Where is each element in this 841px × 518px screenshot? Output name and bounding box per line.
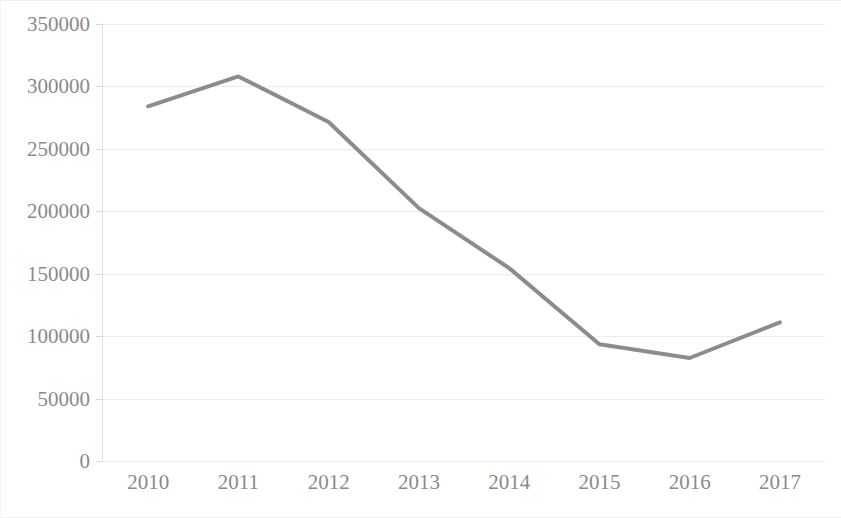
x-axis-tick-label: 2012 xyxy=(308,472,350,493)
y-axis-tick-mark xyxy=(96,211,103,212)
y-axis-tick-label: 100000 xyxy=(27,326,90,347)
chart-top-border xyxy=(0,0,841,1)
x-axis-tick-labels: 20102011201220132014201520162017 xyxy=(103,472,825,506)
y-axis-tick-label: 0 xyxy=(80,451,91,472)
plot-area xyxy=(103,24,825,461)
y-axis-tick-label: 350000 xyxy=(27,14,90,35)
x-axis-tick-label: 2011 xyxy=(218,472,259,493)
x-axis-tick-label: 2016 xyxy=(669,472,711,493)
y-axis-tick-label: 50000 xyxy=(38,389,91,410)
y-axis-tick-labels: 0500001000001500002000002500003000003500… xyxy=(0,0,90,518)
series-1-polyline xyxy=(148,76,780,358)
y-axis-tick-mark xyxy=(96,24,103,25)
x-axis-tick-label: 2010 xyxy=(127,472,169,493)
x-axis-tick-label: 2015 xyxy=(578,472,620,493)
y-axis-tick-mark xyxy=(96,86,103,87)
y-axis-tick-label: 150000 xyxy=(27,264,90,285)
y-axis-tick-mark xyxy=(96,274,103,275)
y-axis-tick-label: 250000 xyxy=(27,139,90,160)
y-axis-tick-mark xyxy=(96,336,103,337)
x-axis-tick-label: 2014 xyxy=(488,472,530,493)
x-axis-tick-label: 2017 xyxy=(759,472,801,493)
line-chart: 0500001000001500002000002500003000003500… xyxy=(0,0,841,518)
y-axis-tick-label: 200000 xyxy=(27,201,90,222)
x-axis-tick-label: 2013 xyxy=(398,472,440,493)
y-axis-tick-mark xyxy=(96,149,103,150)
y-axis-tick-label: 300000 xyxy=(27,76,90,97)
y-axis-tick-mark xyxy=(96,461,103,462)
data-series-line xyxy=(103,24,825,461)
gridline xyxy=(103,461,825,462)
y-axis-tick-mark xyxy=(96,399,103,400)
